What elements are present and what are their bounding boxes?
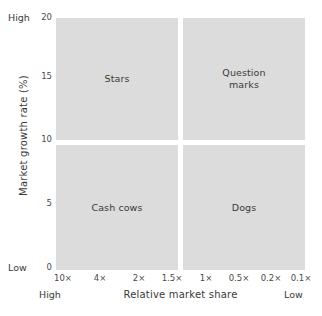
quadrant-stars: Stars [56,18,178,140]
quadrant-label-question-marks: Question marks [222,67,265,91]
x-tick-label-0-1x: 0.1× [281,273,321,283]
quadrant-question-marks: Question marks [183,18,305,140]
y-tick-label-10: 10 [30,134,52,144]
quadrant-label-stars: Stars [105,73,130,85]
y-tick-label-20: 20 [30,12,52,22]
quadrant-cash-cows: Cash cows [56,145,178,270]
y-tick-label-15: 15 [30,71,52,81]
x-tick-label-4x: 4× [80,273,120,283]
horizontal-divider-line [56,140,305,145]
x-tick-label-10x: 10× [43,273,83,283]
y-tick-label-5: 5 [30,198,52,208]
quadrant-dogs: Dogs [183,145,305,270]
plot-area: Stars Question marks Cash cows Dogs [56,18,305,270]
quadrant-label-cash-cows: Cash cows [91,202,142,214]
quadrant-label-dogs: Dogs [232,202,257,214]
bcg-matrix-figure: High Low 20 15 10 5 0 Market growth rate… [0,0,322,316]
x-axis-low-label: Low [284,289,303,300]
y-axis-title: Market growth rate (%) [18,41,29,231]
y-tick-label-0: 0 [30,262,52,272]
x-axis-title: Relative market share [56,289,305,300]
